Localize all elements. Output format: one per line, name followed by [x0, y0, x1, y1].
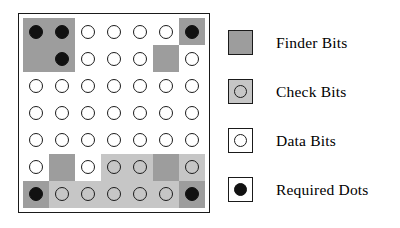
matrix-cell-data	[49, 99, 75, 126]
matrix-cell-finder	[49, 45, 75, 72]
matrix-cell-check	[127, 154, 153, 181]
matrix-cell-data	[127, 45, 153, 72]
bit-circle-icon	[55, 187, 69, 201]
matrix-cell-check	[75, 181, 101, 208]
bit-circle-icon	[234, 134, 247, 147]
matrix-cell-data	[153, 127, 179, 154]
matrix-cell-data	[23, 127, 49, 154]
bit-circle-icon	[133, 79, 147, 93]
bit-circle-icon	[107, 133, 121, 147]
bit-circle-icon	[133, 25, 147, 39]
matrix-cell-check	[49, 181, 75, 208]
matrix-cell-data	[179, 99, 205, 126]
matrix-cell-finder	[179, 18, 205, 45]
matrix-cell-data	[49, 72, 75, 99]
matrix-cell-data	[23, 154, 49, 181]
bit-circle-icon	[133, 133, 147, 147]
bit-circle-icon	[107, 160, 121, 174]
required-dot-icon	[185, 187, 199, 201]
bit-circle-icon	[81, 106, 95, 120]
legend-item-check: Check Bits	[228, 67, 396, 116]
matrix-cell-data	[49, 127, 75, 154]
matrix-cell-finder	[49, 18, 75, 45]
bit-circle-icon	[133, 160, 147, 174]
required-dot-icon	[29, 187, 43, 201]
matrix-cell-finder	[179, 181, 205, 208]
matrix-cell-finder	[153, 154, 179, 181]
bit-matrix-grid	[23, 18, 205, 208]
bit-circle-icon	[55, 133, 69, 147]
matrix-cell-finder	[23, 45, 49, 72]
required-dot-icon	[29, 25, 43, 39]
bit-circle-icon	[29, 79, 43, 93]
required-dot-icon	[55, 25, 69, 39]
bit-circle-icon	[185, 52, 199, 66]
bit-circle-icon	[81, 133, 95, 147]
matrix-cell-data	[23, 99, 49, 126]
legend: Finder BitsCheck BitsData BitsRequired D…	[228, 18, 396, 214]
matrix-cell-finder	[153, 45, 179, 72]
legend-swatch-check	[228, 79, 253, 104]
bit-circle-icon	[185, 133, 199, 147]
matrix-cell-check	[101, 154, 127, 181]
matrix-cell-data	[179, 72, 205, 99]
legend-swatch-data	[228, 128, 253, 153]
bit-circle-icon	[81, 25, 95, 39]
bit-circle-icon	[159, 79, 173, 93]
bit-circle-icon	[107, 25, 121, 39]
required-dot-icon	[185, 25, 199, 39]
bit-circle-icon	[107, 79, 121, 93]
bit-circle-icon	[159, 25, 173, 39]
matrix-cell-data	[153, 72, 179, 99]
matrix-cell-data	[101, 18, 127, 45]
bit-circle-icon	[234, 85, 247, 98]
bit-circle-icon	[159, 187, 173, 201]
matrix-cell-data	[75, 154, 101, 181]
matrix-cell-data	[75, 72, 101, 99]
legend-label-finder: Finder Bits	[276, 35, 348, 51]
bit-circle-icon	[159, 106, 173, 120]
bit-circle-icon	[81, 52, 95, 66]
matrix-cell-data	[101, 99, 127, 126]
legend-label-required: Required Dots	[276, 182, 369, 198]
matrix-cell-data	[75, 45, 101, 72]
matrix-cell-data	[179, 45, 205, 72]
legend-label-data: Data Bits	[276, 133, 336, 149]
bit-circle-icon	[159, 133, 173, 147]
legend-swatch-required	[228, 177, 253, 202]
required-dot-icon	[234, 183, 247, 196]
matrix-cell-data	[127, 18, 153, 45]
matrix-cell-data	[127, 127, 153, 154]
bit-circle-icon	[55, 79, 69, 93]
bit-circle-icon	[81, 187, 95, 201]
bit-circle-icon	[133, 106, 147, 120]
matrix-cell-check	[101, 181, 127, 208]
matrix-cell-finder	[23, 18, 49, 45]
matrix-cell-data	[153, 18, 179, 45]
legend-item-required: Required Dots	[228, 165, 396, 214]
legend-item-data: Data Bits	[228, 116, 396, 165]
bit-circle-icon	[81, 160, 95, 174]
matrix-cell-data	[179, 127, 205, 154]
matrix-cell-data	[75, 127, 101, 154]
legend-item-finder: Finder Bits	[228, 18, 396, 67]
bit-circle-icon	[185, 160, 199, 174]
bit-circle-icon	[133, 187, 147, 201]
bit-circle-icon	[133, 52, 147, 66]
matrix-cell-data	[23, 72, 49, 99]
legend-label-check: Check Bits	[276, 84, 346, 100]
required-dot-icon	[55, 52, 69, 66]
bit-circle-icon	[29, 106, 43, 120]
bit-circle-icon	[81, 79, 95, 93]
matrix-cell-check	[153, 181, 179, 208]
matrix-cell-data	[127, 72, 153, 99]
bit-circle-icon	[29, 160, 43, 174]
matrix-cell-finder	[23, 181, 49, 208]
legend-swatch-finder	[228, 30, 253, 55]
matrix-cell-check	[127, 181, 153, 208]
matrix-cell-data	[75, 18, 101, 45]
matrix-cell-data	[127, 99, 153, 126]
matrix-cell-finder	[49, 154, 75, 181]
bit-circle-icon	[107, 52, 121, 66]
bit-circle-icon	[107, 187, 121, 201]
